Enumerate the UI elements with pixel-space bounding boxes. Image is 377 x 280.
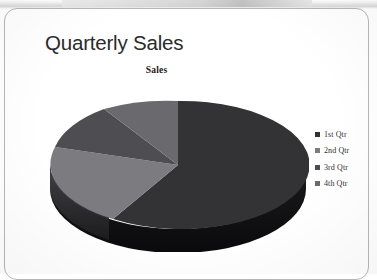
legend-label: 4th Qtr (324, 179, 348, 188)
legend-swatch-icon (315, 132, 320, 137)
legend-item[interactable]: 2nd Qtr (315, 144, 375, 158)
legend-swatch-icon (315, 165, 320, 170)
pie-chart: Sales (9, 61, 374, 266)
legend-label: 1st Qtr (324, 130, 347, 139)
legend-swatch-icon (315, 148, 320, 153)
chart-title: Sales (9, 65, 304, 75)
legend-item[interactable]: 1st Qtr (315, 127, 375, 141)
pie-graphic (47, 77, 309, 252)
legend-swatch-icon (315, 181, 320, 186)
legend-item[interactable]: 3rd Qtr (315, 160, 375, 174)
slide-page-frame: Quarterly Sales Sales (4, 8, 369, 280)
scan-edge-shadow (62, 0, 312, 7)
legend-label: 2nd Qtr (324, 146, 349, 155)
page-title: Quarterly Sales (45, 31, 183, 55)
legend-item[interactable]: 4th Qtr (315, 177, 375, 191)
pie-svg (47, 77, 309, 252)
chart-legend: 1st Qtr 2nd Qtr 3rd Qtr 4th Qtr (315, 127, 375, 193)
legend-label: 3rd Qtr (324, 163, 348, 172)
